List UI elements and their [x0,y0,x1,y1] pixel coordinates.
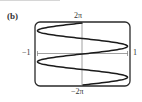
y-max-label: 2π [74,12,82,20]
y-min-label: −2π [71,88,84,96]
x-max-label: 1 [133,49,137,57]
x-min-label: −1 [22,49,31,57]
